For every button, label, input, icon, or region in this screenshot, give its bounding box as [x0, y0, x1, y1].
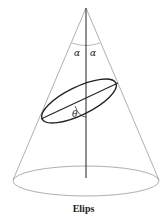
cone-right-edge — [86, 8, 159, 180]
cone-left-edge — [13, 8, 86, 180]
alpha-left-label: α — [74, 48, 80, 58]
cone-section-diagram: α α θ — [0, 0, 167, 218]
alpha-right-label: α — [90, 48, 96, 58]
figure-caption: Elips — [0, 203, 167, 214]
theta-label: θ — [72, 109, 78, 119]
